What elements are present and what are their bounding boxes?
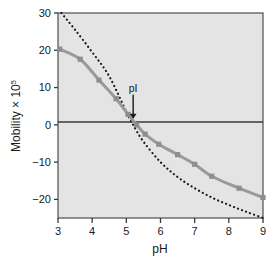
x-axis-tick-labels: 3456789 — [55, 225, 266, 237]
data-point-marker — [192, 162, 197, 167]
y-tick-label: 0 — [45, 119, 51, 131]
data-point-marker — [113, 96, 118, 101]
x-tick-label: 9 — [260, 225, 266, 237]
y-tick-label: 30 — [39, 7, 51, 19]
chart-canvas: 3020100−10−20 3456789 pI pH Mobility × 1… — [0, 0, 276, 263]
x-tick-label: 4 — [89, 225, 95, 237]
data-point-marker — [143, 132, 148, 137]
y-axis-title-text: Mobility × 10 — [9, 84, 23, 152]
y-axis-title-group: Mobility × 105 — [9, 80, 23, 152]
x-tick-label: 8 — [226, 225, 232, 237]
data-point-marker — [236, 186, 241, 191]
y-axis-title-exponent: 5 — [9, 80, 18, 84]
data-point-marker — [175, 152, 180, 157]
data-point-marker — [134, 122, 139, 127]
mobility-vs-ph-chart: 3020100−10−20 3456789 pI pH Mobility × 1… — [0, 0, 276, 263]
y-axis-title: Mobility × 105 — [9, 80, 23, 152]
x-tick-label: 3 — [55, 225, 61, 237]
y-axis-tick-labels: 3020100−10−20 — [32, 7, 51, 205]
y-tick-label: 10 — [39, 81, 51, 93]
y-tick-label: −10 — [32, 156, 51, 168]
data-point-marker — [260, 195, 265, 200]
data-point-marker — [125, 112, 130, 117]
data-point-marker — [156, 142, 161, 147]
data-point-marker — [96, 77, 101, 82]
data-point-marker — [78, 57, 83, 62]
data-point-marker — [209, 174, 214, 179]
plot-background — [58, 13, 263, 218]
x-tick-label: 6 — [157, 225, 163, 237]
y-tick-label: −20 — [32, 193, 51, 205]
x-tick-label: 7 — [192, 225, 198, 237]
x-tick-label: 5 — [123, 225, 129, 237]
y-tick-label: 20 — [39, 44, 51, 56]
data-point-marker — [57, 47, 62, 52]
x-axis-tick-marks — [58, 218, 263, 223]
x-axis-title: pH — [152, 242, 167, 256]
pi-label: pI — [129, 82, 138, 94]
